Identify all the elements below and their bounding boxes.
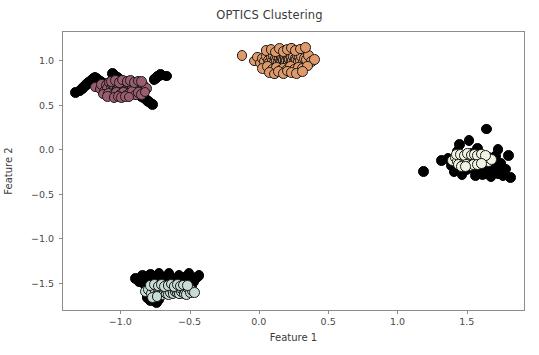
x-tick-label: −0.5	[178, 316, 201, 327]
y-tick-label: 0.5	[39, 99, 54, 110]
scatter-point	[297, 66, 308, 77]
matplotlib-figure: OPTICS Clustering −1.0−0.50.00.51.01.51.…	[0, 0, 539, 355]
x-tick-label: 0.0	[251, 316, 266, 327]
y-tick-mark	[59, 60, 62, 61]
y-tick-label: −1.0	[31, 233, 54, 244]
chart-title: OPTICS Clustering	[0, 8, 539, 22]
plot-axes-frame	[62, 31, 525, 311]
scatter-point	[147, 99, 158, 110]
scatter-point	[237, 50, 248, 61]
scatter-point	[495, 162, 506, 173]
scatter-point	[460, 161, 471, 172]
scatter-point	[124, 92, 135, 103]
x-tick-label: −1.0	[109, 316, 132, 327]
scatter-point	[136, 76, 147, 87]
x-tick-label: 0.5	[321, 316, 336, 327]
y-tick-label: 0.0	[39, 144, 54, 155]
y-tick-mark	[59, 283, 62, 284]
x-tick-mark	[328, 311, 329, 314]
scatter-point	[493, 144, 504, 155]
scatter-point	[418, 166, 429, 177]
y-tick-label: −0.5	[31, 188, 54, 199]
scatter-point	[505, 172, 516, 183]
scatter-point	[194, 270, 205, 281]
scatter-points-layer	[63, 32, 526, 312]
y-tick-mark	[59, 238, 62, 239]
x-tick-mark	[259, 311, 260, 314]
x-tick-mark	[467, 311, 468, 314]
y-tick-mark	[59, 149, 62, 150]
x-tick-mark	[120, 311, 121, 314]
y-axis-label: Feature 2	[3, 147, 14, 194]
x-tick-mark	[190, 311, 191, 314]
y-tick-mark	[59, 194, 62, 195]
scatter-point	[481, 124, 492, 135]
x-tick-label: 1.5	[459, 316, 474, 327]
y-tick-label: 1.0	[39, 55, 54, 66]
x-tick-label: 1.0	[390, 316, 405, 327]
scatter-point	[503, 150, 514, 161]
scatter-point	[300, 42, 311, 53]
y-tick-mark	[59, 105, 62, 106]
x-axis-label: Feature 1	[62, 332, 525, 343]
scatter-point	[161, 71, 172, 82]
x-tick-mark	[397, 311, 398, 314]
y-tick-label: −1.5	[31, 277, 54, 288]
